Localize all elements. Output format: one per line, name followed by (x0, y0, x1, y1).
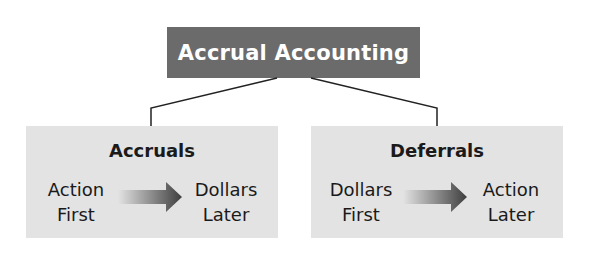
connector-left (151, 78, 277, 126)
to-line2: Later (468, 202, 554, 227)
node-title: Accruals (26, 140, 278, 161)
gradient-arrow-icon (118, 181, 184, 213)
from-line1: Action (33, 177, 119, 202)
from-line1: Dollars (318, 177, 404, 202)
node-deferrals: Deferrals Dollars First Action Later (311, 126, 563, 238)
to-label: Dollars Later (183, 177, 269, 227)
from-line2: First (318, 202, 404, 227)
from-line2: First (33, 202, 119, 227)
node-accruals: Accruals Action First Dollars Later (26, 126, 278, 238)
node-title: Deferrals (311, 140, 563, 161)
to-line1: Dollars (183, 177, 269, 202)
to-line1: Action (468, 177, 554, 202)
to-line2: Later (183, 202, 269, 227)
gradient-arrow-icon (403, 181, 469, 213)
to-label: Action Later (468, 177, 554, 227)
connector-right (311, 78, 437, 126)
from-label: Dollars First (318, 177, 404, 227)
from-label: Action First (33, 177, 119, 227)
